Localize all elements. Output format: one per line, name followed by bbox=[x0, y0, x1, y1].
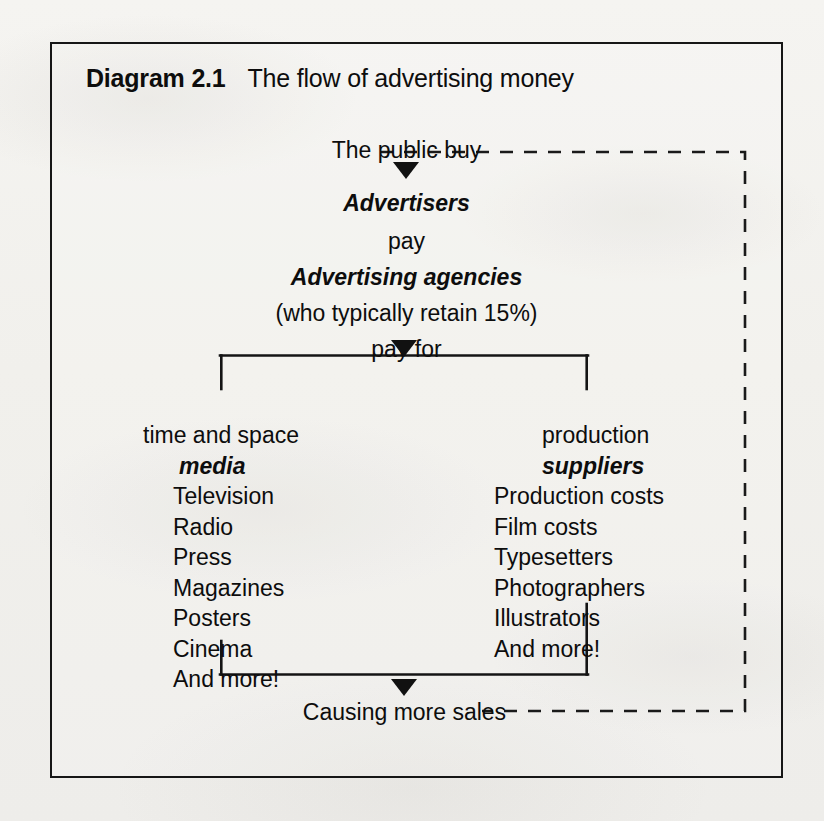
diagram-title: Diagram 2.1The flow of advertising money bbox=[86, 64, 574, 93]
column-left-subheading: media bbox=[179, 451, 299, 482]
list-item: Cinema bbox=[173, 634, 299, 665]
list-item: Illustrators bbox=[494, 603, 664, 634]
column-right-subheading: suppliers bbox=[542, 451, 664, 482]
list-item: Photographers bbox=[494, 573, 664, 604]
flow-pay-label: pay bbox=[52, 230, 761, 253]
list-item: Film costs bbox=[494, 512, 664, 543]
list-item: Radio bbox=[173, 512, 299, 543]
flow-advertisers-label: Advertisers bbox=[52, 192, 761, 215]
list-item: Typesetters bbox=[494, 542, 664, 573]
list-item: And more! bbox=[494, 634, 664, 665]
arrow-agencies-to-columns bbox=[391, 340, 417, 357]
list-item: Production costs bbox=[494, 481, 664, 512]
diagram-caption: The flow of advertising money bbox=[248, 64, 574, 92]
column-left-heading: time and space bbox=[143, 420, 299, 451]
arrow-public-to-advertisers bbox=[393, 162, 419, 179]
arrow-columns-to-outcome bbox=[391, 679, 417, 696]
column-production: production suppliers Production costs Fi… bbox=[494, 420, 664, 664]
list-item: And more! bbox=[173, 664, 299, 695]
column-right-heading: production bbox=[542, 420, 664, 451]
flow-agencies-label: Advertising agencies bbox=[52, 266, 761, 289]
list-item: Press bbox=[173, 542, 299, 573]
flow-start-label: The public buy bbox=[52, 139, 761, 162]
flow-agencies-note: (who typically retain 15%) bbox=[52, 302, 761, 325]
list-item: Magazines bbox=[173, 573, 299, 604]
flow-outcome-label: Causing more sales bbox=[50, 699, 759, 726]
diagram-number: Diagram 2.1 bbox=[86, 64, 226, 92]
list-item: Television bbox=[173, 481, 299, 512]
list-item: Posters bbox=[173, 603, 299, 634]
diagram-frame: Diagram 2.1The flow of advertising money… bbox=[50, 42, 783, 778]
column-time-and-space: time and space media Television Radio Pr… bbox=[143, 420, 299, 695]
